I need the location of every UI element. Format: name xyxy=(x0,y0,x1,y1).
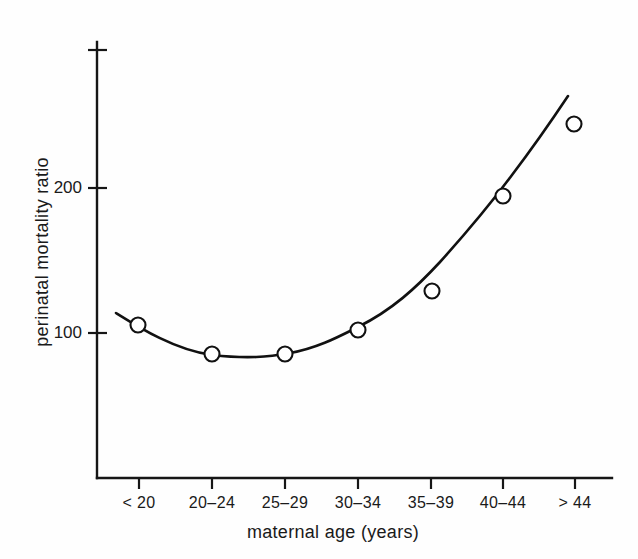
perinatal-mortality-chart: 200 100 < 20 20–24 25–29 30–34 35–39 40–… xyxy=(0,0,638,559)
x-tick-label-2: 25–29 xyxy=(262,494,309,511)
y-tick-label-200: 200 xyxy=(54,178,82,197)
y-axis-title: perinatal mortality ratio xyxy=(32,157,52,347)
x-tick-label-6: > 44 xyxy=(558,494,591,511)
data-point-0 xyxy=(131,318,146,333)
x-axis-title: maternal age (years) xyxy=(247,522,419,542)
x-tick-label-4: 35–39 xyxy=(408,494,455,511)
data-point-6 xyxy=(567,117,582,132)
x-tick-label-3: 30–34 xyxy=(335,494,382,511)
trend-curve xyxy=(116,96,568,357)
chart-container: 200 100 < 20 20–24 25–29 30–34 35–39 40–… xyxy=(0,0,638,559)
data-point-2 xyxy=(278,347,293,362)
x-tick-label-1: 20–24 xyxy=(189,494,236,511)
x-tick-label-0: < 20 xyxy=(122,494,155,511)
data-point-5 xyxy=(496,189,511,204)
x-tick-label-5: 40–44 xyxy=(480,494,527,511)
data-point-1 xyxy=(205,347,220,362)
data-point-3 xyxy=(351,323,366,338)
data-point-4 xyxy=(425,284,440,299)
y-tick-label-100: 100 xyxy=(54,323,82,342)
